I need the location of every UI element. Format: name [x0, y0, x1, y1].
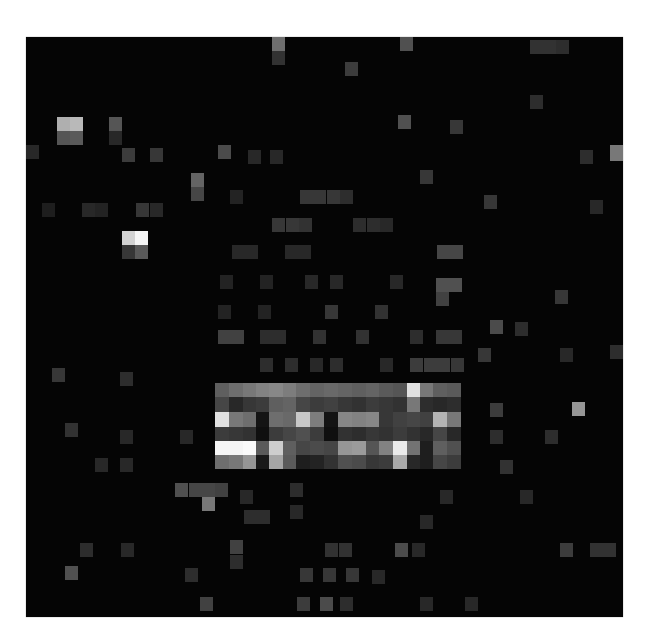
- map-cell: [366, 441, 380, 455]
- map-cell: [218, 145, 231, 159]
- map-cell: [390, 275, 403, 289]
- map-cell: [180, 430, 193, 444]
- map-cell: [530, 95, 543, 109]
- map-cell: [590, 543, 603, 557]
- map-cell: [229, 455, 243, 469]
- map-cell: [366, 455, 380, 469]
- map-cell: [122, 148, 135, 162]
- map-cell: [450, 120, 463, 134]
- map-cell: [447, 441, 461, 455]
- map-cell: [150, 203, 163, 217]
- map-cell: [283, 383, 297, 397]
- map-cell: [290, 483, 303, 497]
- map-cell: [200, 597, 213, 611]
- map-cell: [95, 458, 108, 472]
- map-cell: [244, 510, 257, 524]
- map-cell: [65, 423, 78, 437]
- map-cell: [191, 187, 204, 201]
- map-cell: [407, 427, 421, 441]
- map-cell: [57, 117, 70, 131]
- map-cell: [220, 275, 233, 289]
- map-cell: [243, 427, 257, 441]
- map-cell: [82, 203, 95, 217]
- map-cell: [420, 515, 433, 529]
- map-cell: [57, 131, 70, 145]
- map-cell: [283, 412, 297, 427]
- map-cell: [296, 397, 310, 412]
- map-cell: [269, 455, 283, 469]
- map-cell: [324, 397, 338, 412]
- map-cell: [366, 397, 380, 412]
- map-cell: [256, 455, 270, 469]
- map-cell: [26, 145, 39, 159]
- map-cell: [339, 543, 352, 557]
- map-cell: [310, 412, 324, 427]
- map-cell: [447, 412, 461, 427]
- map-cell: [52, 368, 65, 382]
- map-cell: [340, 190, 353, 204]
- map-cell: [285, 245, 298, 259]
- map-cell: [256, 427, 270, 441]
- map-cell: [310, 441, 324, 455]
- map-cell: [490, 403, 503, 417]
- map-cell: [296, 412, 310, 427]
- map-cell: [230, 190, 243, 204]
- map-cell: [298, 245, 311, 259]
- map-cell: [296, 383, 310, 397]
- map-cell: [310, 397, 324, 412]
- map-cell: [243, 412, 257, 427]
- map-cell: [313, 330, 326, 344]
- map-cell: [398, 115, 411, 129]
- map-cell: [407, 397, 421, 412]
- map-cell: [325, 543, 338, 557]
- map-cell: [185, 568, 198, 582]
- map-cell: [372, 570, 385, 584]
- map-cell: [121, 543, 134, 557]
- map-cell: [95, 203, 108, 217]
- map-cell: [70, 131, 83, 145]
- map-cell: [283, 427, 297, 441]
- map-cell: [300, 568, 313, 582]
- map-cell: [420, 427, 434, 441]
- map-cell: [325, 305, 338, 319]
- map-cell: [393, 412, 407, 427]
- map-cell: [433, 412, 447, 427]
- map-cell: [286, 218, 299, 232]
- map-cell: [433, 427, 447, 441]
- map-cell: [338, 397, 352, 412]
- map-cell: [393, 427, 407, 441]
- map-cell: [449, 278, 462, 292]
- map-cell: [320, 597, 333, 611]
- map-cell: [395, 543, 408, 557]
- map-cell: [407, 455, 421, 469]
- map-cell: [545, 430, 558, 444]
- map-cell: [610, 345, 623, 359]
- map-cell: [379, 412, 393, 427]
- map-cell: [346, 568, 359, 582]
- map-cell: [560, 543, 573, 557]
- map-cell: [240, 490, 253, 504]
- map-cell: [340, 597, 353, 611]
- map-cell: [366, 412, 380, 427]
- map-cell: [229, 412, 243, 427]
- map-cell: [556, 40, 569, 54]
- map-cell: [218, 330, 231, 344]
- map-cell: [379, 397, 393, 412]
- map-cell: [189, 483, 202, 497]
- map-cell: [338, 455, 352, 469]
- map-cell: [451, 358, 464, 372]
- map-cell: [269, 383, 283, 397]
- map-cell: [366, 427, 380, 441]
- map-cell: [352, 441, 366, 455]
- map-cell: [338, 412, 352, 427]
- map-cell: [42, 203, 55, 217]
- map-cell: [215, 397, 229, 412]
- map-cell: [410, 330, 423, 344]
- map-cell: [135, 245, 148, 259]
- map-cell: [478, 348, 491, 362]
- map-cell: [555, 290, 568, 304]
- map-cell: [352, 412, 366, 427]
- map-cell: [269, 441, 283, 455]
- map-cell: [345, 62, 358, 76]
- map-cell: [380, 358, 393, 372]
